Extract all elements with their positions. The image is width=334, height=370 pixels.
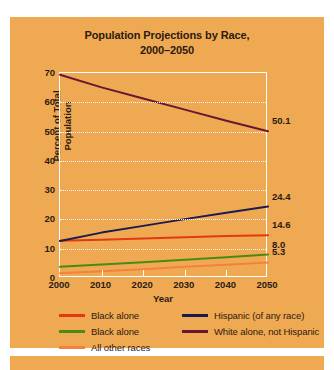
legend-item[interactable]: All other races (59, 341, 150, 354)
chart-title: Population Projections by Race, 2000–205… (10, 28, 324, 57)
gridline (60, 102, 266, 103)
x-tick-label: 2050 (247, 279, 287, 290)
legend-color-swatch (59, 330, 85, 333)
chart-title-line-2: 2000–2050 (10, 43, 324, 58)
x-tick-label: 2010 (81, 279, 121, 290)
legend-color-swatch (59, 314, 85, 317)
legend-label: White alone, not Hispanic (214, 326, 319, 337)
legend-color-swatch (182, 330, 208, 333)
chart-page: Population Projections by Race, 2000–205… (0, 0, 334, 370)
x-tick-label: 2000 (39, 279, 79, 290)
series-end-label: 50.1 (272, 115, 291, 126)
legend-item[interactable]: Black alone (59, 309, 139, 322)
series-line (60, 235, 268, 241)
gridline (60, 249, 266, 250)
legend-item[interactable]: Hispanic (of any race) (182, 309, 304, 322)
series-line (60, 262, 268, 273)
chart-panel: Population Projections by Race, 2000–205… (10, 17, 324, 348)
y-tick-label: 30 (25, 184, 55, 195)
x-tick-label: 2040 (205, 279, 245, 290)
legend-label: All other races (91, 342, 150, 353)
plot-area: 14.68.05.324.450.1 (59, 72, 267, 277)
chart-title-line-1: Population Projections by Race, (10, 28, 324, 43)
x-tick-label: 2020 (122, 279, 162, 290)
gridline (60, 219, 266, 220)
legend-label: Hispanic (of any race) (214, 310, 304, 321)
legend-item[interactable]: White alone, not Hispanic (182, 325, 319, 338)
y-tick-label: 60 (25, 96, 55, 107)
y-tick-label: 20 (25, 213, 55, 224)
x-axis-tick (102, 270, 103, 276)
x-axis-title: Year (59, 293, 267, 304)
next-panel (10, 356, 324, 370)
chart-legend: Black aloneBlack aloneAll other racesHis… (59, 309, 324, 357)
series-end-label: 24.4 (272, 190, 291, 201)
x-axis-tick (226, 270, 227, 276)
y-tick-label: 50 (25, 125, 55, 136)
legend-color-swatch (59, 346, 85, 349)
legend-label: Black alone (91, 310, 139, 321)
legend-label: Black alone (91, 326, 139, 337)
y-tick-label: 70 (25, 67, 55, 78)
gridline (60, 190, 266, 191)
x-axis-tick-labels: 200020102020203020402050 (59, 279, 267, 293)
gridline (60, 132, 266, 133)
legend-item[interactable]: Black alone (59, 325, 139, 338)
gridline (60, 161, 266, 162)
x-axis-tick (185, 270, 186, 276)
x-tick-label: 2030 (164, 279, 204, 290)
series-lines (60, 73, 268, 278)
x-axis-tick (143, 270, 144, 276)
y-tick-label: 40 (25, 154, 55, 165)
series-end-label: 14.6 (272, 219, 291, 230)
y-tick-label: 10 (25, 242, 55, 253)
legend-color-swatch (182, 314, 208, 317)
y-axis-tick-labels: 010203040506070 (21, 72, 55, 277)
series-end-label: 5.3 (272, 246, 285, 257)
